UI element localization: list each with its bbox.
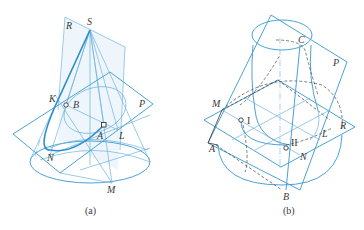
label-b-b: B: [283, 191, 289, 202]
label-n: N: [46, 152, 55, 163]
label-p-b: P: [332, 57, 339, 68]
caption-b: (b): [283, 205, 295, 217]
figure-a: S R K B P A L N M (a): [13, 16, 153, 217]
label-b: B: [73, 99, 79, 110]
label-m: M: [106, 184, 116, 195]
label-r-b: R: [339, 120, 346, 131]
label-l: L: [118, 130, 125, 141]
point-i: [239, 118, 243, 122]
label-a-b: A: [208, 143, 216, 154]
label-r: R: [65, 20, 72, 31]
plane-r-b: [204, 80, 355, 167]
point-a: [102, 123, 107, 128]
label-l-b: L: [321, 128, 328, 139]
label-s: S: [87, 16, 92, 27]
label-i: I: [247, 115, 250, 126]
label-m-b: M: [211, 98, 221, 109]
label-n-b: N: [299, 151, 308, 162]
plane-p-b: [208, 15, 347, 190]
label-p: P: [138, 98, 145, 109]
point-b: [64, 103, 68, 107]
label-ii: II: [291, 137, 298, 148]
line-c-b: [286, 45, 300, 190]
diagram-canvas: S R K B P A L N M (a): [0, 0, 364, 230]
figure-b: C P M I R L II N A B (b): [204, 15, 355, 217]
left-wall: [252, 45, 290, 145]
label-k: K: [48, 93, 57, 104]
label-a: A: [96, 130, 104, 141]
label-c: C: [298, 34, 305, 45]
grid-r-3: [232, 98, 310, 140]
point-ii: [284, 146, 288, 150]
caption-a: (a): [85, 205, 96, 217]
